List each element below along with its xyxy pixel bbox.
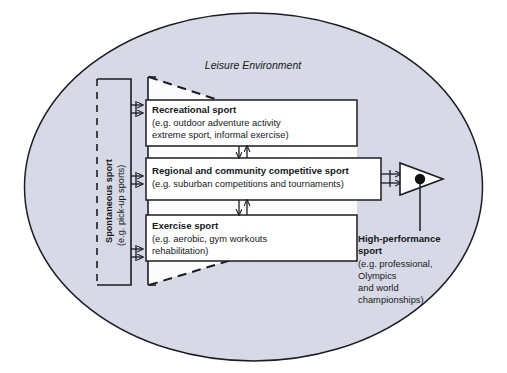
high-performance-heading-line-1: High-performance (358, 233, 441, 244)
spontaneous-sport-example: (e.g. pick-up sports) (116, 165, 126, 246)
regional-community-sport-line-1: (e.g. suburban competitions and tourname… (152, 178, 344, 189)
diagram-canvas: Leisure Environment Spontaneous sport (e… (0, 0, 507, 373)
filled-circle-node-icon (415, 174, 425, 184)
regional-community-sport-heading: Regional and community competitive sport (152, 165, 350, 176)
high-performance-line-3: and world (358, 282, 399, 293)
spontaneous-sport-heading: Spontaneous sport (104, 159, 114, 243)
leisure-environment-label: Leisure Environment (205, 59, 302, 71)
sport-development-continuum-diagram: Leisure Environment Spontaneous sport (e… (0, 0, 507, 373)
high-performance-line-2: Olympics (358, 270, 397, 281)
recreational-sport-line-2: extreme sport, informal exercise) (152, 129, 289, 140)
exercise-sport-heading: Exercise sport (152, 220, 219, 231)
exercise-sport-line-2: rehabilitation) (152, 245, 208, 256)
high-performance-heading-line-2: sport (358, 245, 383, 256)
recreational-sport-heading: Recreational sport (152, 104, 237, 115)
high-performance-line-1: (e.g. professional, (358, 258, 433, 269)
high-performance-line-4: championships) (358, 294, 424, 305)
recreational-sport-line-1: (e.g. outdoor adventure activity (152, 117, 281, 128)
exercise-sport-line-1: (e.g. aerobic, gym workouts (152, 233, 267, 244)
